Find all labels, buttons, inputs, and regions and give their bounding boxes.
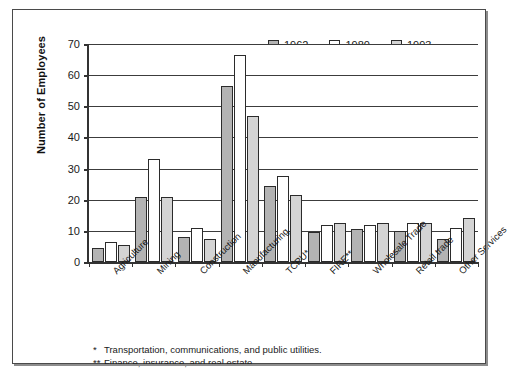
- x-tick-mark: [132, 262, 133, 267]
- bar[interactable]: [364, 225, 376, 262]
- y-tick-label: 10: [68, 225, 80, 236]
- footnotes: *Transportation, communications, and pub…: [93, 343, 322, 369]
- bar[interactable]: [277, 176, 289, 262]
- y-tick-label: 40: [68, 132, 80, 143]
- bar[interactable]: [105, 242, 117, 262]
- x-tick-mark: [478, 262, 479, 267]
- bar-group: [132, 44, 175, 262]
- bar[interactable]: [92, 248, 104, 262]
- bar-group: [175, 44, 218, 262]
- y-tick-label: 50: [68, 101, 80, 112]
- footnote-mark: **: [93, 356, 104, 369]
- x-tick-mark: [175, 262, 176, 267]
- y-tick-label: 30: [68, 163, 80, 174]
- x-tick-mark: [305, 262, 306, 267]
- footnote-row: *Transportation, communications, and pub…: [93, 343, 322, 356]
- bar[interactable]: [321, 225, 333, 262]
- footnote-mark: *: [93, 343, 104, 356]
- y-axis-title: Number of Employees: [35, 36, 47, 154]
- x-tick-mark: [435, 262, 436, 267]
- x-tick-mark: [392, 262, 393, 267]
- x-tick-mark: [262, 262, 263, 267]
- footnote-text: Finance, insurance, and real estate.: [104, 357, 255, 368]
- plot-area: 010203040506070 AgricultureMiningConstru…: [87, 44, 478, 264]
- figure-frame: Number of Employees 1962 1980 1993 01020…: [12, 9, 486, 364]
- x-tick-mark: [348, 262, 349, 267]
- x-tick-mark: [89, 262, 90, 267]
- bar[interactable]: [247, 116, 259, 262]
- y-tick-label: 70: [68, 39, 80, 50]
- bar-group: [219, 44, 262, 262]
- y-tick-label: 20: [68, 194, 80, 205]
- bar-group: [348, 44, 391, 262]
- bar[interactable]: [148, 159, 160, 262]
- y-tick-label: 60: [68, 70, 80, 81]
- y-tick-label: 0: [74, 257, 80, 268]
- bar-group: [435, 44, 478, 262]
- x-tick-mark: [219, 262, 220, 267]
- bar-group: [89, 44, 132, 262]
- footnote-row: **Finance, insurance, and real estate.: [93, 356, 322, 369]
- bar[interactable]: [191, 228, 203, 262]
- bar-group: [305, 44, 348, 262]
- footnote-text: Transportation, communications, and publ…: [104, 344, 322, 355]
